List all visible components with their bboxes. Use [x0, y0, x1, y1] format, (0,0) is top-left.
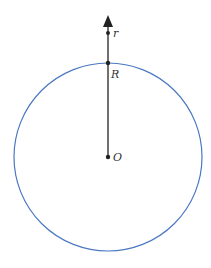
label-O: O: [113, 151, 122, 164]
label-R: R: [110, 68, 119, 81]
label-r: r: [113, 27, 119, 40]
arrowhead-icon: [103, 15, 113, 27]
diagram-canvas: r R O: [0, 0, 211, 268]
point-r: [106, 31, 110, 35]
point-R: [106, 61, 110, 65]
point-O: [106, 155, 110, 159]
